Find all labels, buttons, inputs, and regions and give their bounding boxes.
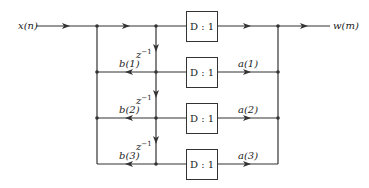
delay-exponent: −1 xyxy=(141,94,151,102)
downsampler-box-1: D : 1 xyxy=(186,11,218,42)
downsampler-box-2: D : 1 xyxy=(186,57,218,88)
coeff-b2: b(2) xyxy=(119,105,140,115)
coeff-b1: b(1) xyxy=(119,59,140,69)
downsampler-label: D : 1 xyxy=(190,159,214,170)
input-label: x(n) xyxy=(18,21,38,31)
coeff-a1: a(1) xyxy=(238,59,258,69)
downsampler-box-4: D : 1 xyxy=(186,149,218,180)
delay-exponent: −1 xyxy=(141,48,151,56)
coeff-a3: a(3) xyxy=(238,151,258,161)
coeff-a2: a(2) xyxy=(238,105,258,115)
signal-flow-lines xyxy=(0,0,369,188)
coeff-b3: b(3) xyxy=(119,151,140,161)
downsampler-label: D : 1 xyxy=(190,113,214,124)
output-label: w(m) xyxy=(333,21,359,31)
downsampler-box-3: D : 1 xyxy=(186,103,218,134)
downsampler-label: D : 1 xyxy=(190,67,214,78)
downsampler-label: D : 1 xyxy=(190,21,214,32)
delay-exponent: −1 xyxy=(141,140,151,148)
